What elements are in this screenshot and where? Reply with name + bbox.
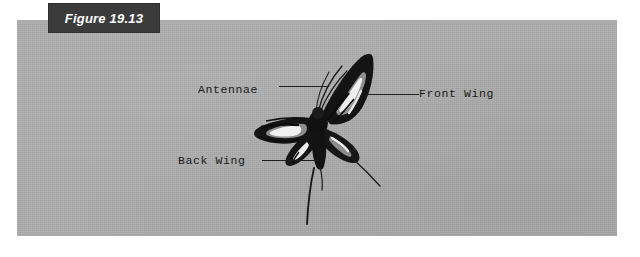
leader-line-antennae bbox=[279, 86, 329, 87]
figure-number-tab: Figure 19.13 bbox=[48, 3, 160, 33]
photo-grain-overlay bbox=[17, 20, 617, 236]
figure-container: Antennae Front Wing Back Wing Figure 19.… bbox=[0, 0, 640, 257]
callout-label-front-wing: Front Wing bbox=[419, 87, 494, 100]
figure-number-label: Figure 19.13 bbox=[65, 11, 143, 26]
callout-label-antennae: Antennae bbox=[198, 83, 258, 96]
callout-label-back-wing: Back Wing bbox=[178, 154, 246, 167]
photo-panel bbox=[17, 20, 617, 236]
leader-line-front-wing bbox=[365, 94, 419, 95]
leader-line-back-wing bbox=[262, 160, 318, 161]
